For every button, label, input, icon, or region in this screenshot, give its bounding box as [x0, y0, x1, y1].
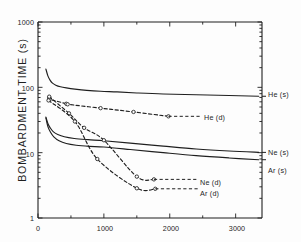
- series-he-s: [46, 69, 259, 96]
- series-label-he-d: He (d): [204, 113, 225, 122]
- series-label-he-s: He (s): [268, 90, 289, 99]
- y-tick-label-1: 1: [8, 214, 34, 223]
- marker-He (d)-3: [66, 103, 69, 106]
- x-tick-label-1000: 1000: [92, 224, 118, 233]
- curve-Ne (s): [46, 117, 259, 152]
- plot-area: [0, 0, 301, 242]
- marker-He (d)-5: [132, 110, 135, 113]
- chart-figure: BOMBARDMENT TIME (s) 1000 100 10 1 0 100…: [0, 0, 301, 242]
- y-axis-title: BOMBARDMENT TIME (s): [16, 10, 28, 210]
- y-tick-label-1000: 1000: [8, 18, 34, 27]
- marker-Ne (d)-2: [82, 126, 85, 129]
- series-label-ar-d: Ar (d): [200, 189, 219, 198]
- marker-Ar (d)-1: [73, 120, 76, 123]
- series-label-ar-s: Ar (s): [268, 166, 287, 175]
- series-label-ne-d: Ne (d): [200, 178, 221, 187]
- marker-Ar (d)-2: [96, 157, 99, 160]
- x-tick-label-3000: 3000: [224, 224, 250, 233]
- curve-Ar (d): [49, 100, 156, 190]
- series-ne-s: [46, 117, 259, 152]
- series-he-d: [48, 96, 171, 118]
- marker-Ne (d)-4: [135, 175, 138, 178]
- y-tick-label-100: 100: [8, 84, 34, 93]
- x-tick-label-2000: 2000: [158, 224, 184, 233]
- marker-Ne (d)-0: [48, 95, 51, 98]
- x-tick-label-0: 0: [30, 224, 46, 233]
- marker-Ar (d)-3: [135, 187, 138, 190]
- marker-Ne (d)-3: [102, 139, 105, 142]
- curve-He (s): [46, 69, 259, 96]
- marker-He (d)-4: [99, 106, 102, 109]
- series-label-ne-s: Ne (s): [268, 148, 289, 157]
- y-tick-label-10: 10: [8, 150, 34, 159]
- marker-Ar (d)-0: [47, 99, 50, 102]
